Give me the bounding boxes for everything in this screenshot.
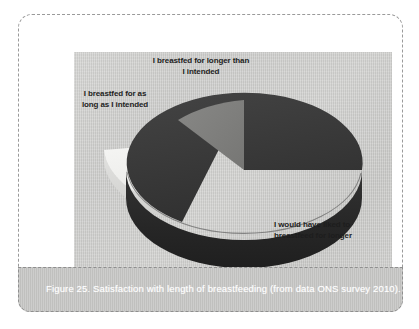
pie-label-as-long-as-intended: I breastfed for as long as I intended (74, 89, 166, 110)
pie-label-would-have-liked-line1: I would have liked to (274, 220, 350, 229)
pie-label-as-long-as-intended-line1: I breastfed for as (84, 89, 147, 98)
figure-caption-band: Figure 25. Satisfaction with length of b… (18, 267, 403, 312)
pie-slice-would-have-liked (126, 93, 363, 268)
figure-caption-text: Figure 25. Satisfaction with length of b… (46, 283, 401, 294)
pie-label-would-have-liked: I would have liked to breastfeed for lon… (274, 220, 392, 241)
pie-label-would-have-liked-line2: breastfeed for longer (274, 231, 352, 240)
pie-label-longer-than-intended: I breastfed for longer than I intended (141, 56, 261, 77)
pie-label-longer-than-intended-line1: I breastfed for longer than (153, 56, 249, 65)
chart-image: I breastfed for longer than I intended I… (74, 52, 392, 273)
pie-label-as-long-as-intended-line2: long as I intended (82, 100, 148, 109)
pie-label-longer-than-intended-line2: I intended (183, 67, 220, 76)
dark-slice-top (127, 93, 363, 222)
